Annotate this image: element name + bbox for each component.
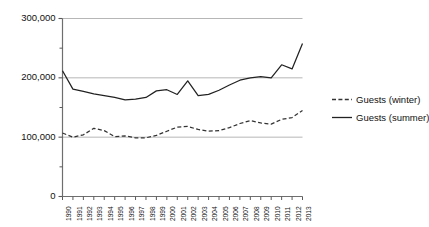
x-axis-label: 2004 bbox=[211, 206, 218, 221]
y-axis bbox=[59, 19, 63, 197]
x-axis-label: 2001 bbox=[180, 206, 187, 221]
x-axis-label: 1995 bbox=[117, 206, 124, 221]
x-axis bbox=[63, 197, 303, 201]
x-axis-label: 1994 bbox=[107, 206, 114, 221]
x-axis-label: 1997 bbox=[138, 206, 145, 221]
x-axis-label: 2008 bbox=[253, 206, 260, 221]
x-axis-label: 2006 bbox=[232, 206, 239, 221]
x-axis-label: 2013 bbox=[305, 206, 312, 221]
x-axis-label: 2012 bbox=[295, 206, 302, 221]
series-line-guests-summer bbox=[63, 43, 303, 99]
x-axis-label: 2005 bbox=[222, 206, 229, 221]
x-axis-label: 1998 bbox=[149, 206, 156, 221]
legend-marks bbox=[332, 100, 352, 118]
x-axis-label: 2003 bbox=[201, 206, 208, 221]
legend-entry-label: Guests (summer) bbox=[356, 112, 429, 123]
x-axis-label: 2010 bbox=[274, 206, 281, 221]
x-axis-label: 1999 bbox=[159, 206, 166, 221]
x-axis-label: 1992 bbox=[86, 206, 93, 221]
x-axis-label: 2000 bbox=[169, 206, 176, 221]
x-axis-label: 1990 bbox=[65, 206, 72, 221]
series-line-guests-winter bbox=[63, 110, 303, 137]
x-axis-label: 1993 bbox=[96, 206, 103, 221]
y-axis-label: 200,000 bbox=[0, 72, 56, 82]
x-axis-label: 1991 bbox=[76, 206, 83, 221]
data-series bbox=[63, 43, 303, 137]
y-axis-label: 0 bbox=[0, 191, 56, 201]
y-axis-label: 100,000 bbox=[0, 132, 56, 142]
x-axis-label: 2009 bbox=[263, 206, 270, 221]
x-axis-label: 2002 bbox=[190, 206, 197, 221]
x-axis-label: 2011 bbox=[284, 207, 291, 221]
legend-entry-label: Guests (winter) bbox=[356, 94, 420, 105]
x-axis-label: 2007 bbox=[242, 206, 249, 221]
y-axis-label: 300,000 bbox=[0, 13, 56, 23]
x-axis-label: 1996 bbox=[128, 206, 135, 221]
